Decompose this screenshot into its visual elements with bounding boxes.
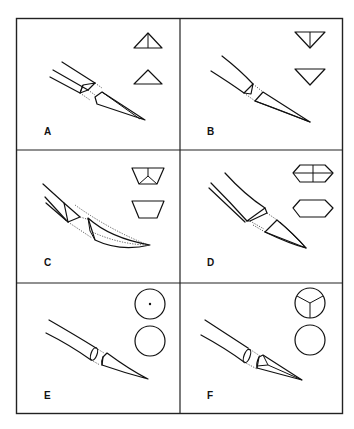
needle-d-icon bbox=[209, 173, 306, 248]
panel-f: F bbox=[201, 288, 325, 401]
panel-label-b: B bbox=[207, 126, 214, 137]
cross-section-f-tip-icon bbox=[295, 288, 325, 318]
needle-e-icon bbox=[46, 320, 148, 379]
needle-b-icon bbox=[211, 56, 310, 122]
cross-section-b-body-icon bbox=[295, 69, 325, 85]
panel-label-f: F bbox=[207, 390, 213, 401]
needle-c-icon bbox=[43, 184, 150, 248]
panel-label-c: C bbox=[44, 257, 51, 268]
needle-f-icon bbox=[201, 320, 302, 380]
cross-section-d-body-icon bbox=[293, 200, 333, 217]
panel-label-e: E bbox=[44, 390, 51, 401]
needle-diagram: A B bbox=[0, 0, 354, 429]
cross-section-c-body-icon bbox=[132, 201, 164, 218]
panel-label-d: D bbox=[207, 257, 214, 268]
panel-d: D bbox=[207, 165, 333, 268]
cross-section-a-body-icon bbox=[134, 70, 162, 84]
panel-e: E bbox=[44, 289, 165, 401]
center-dot-icon bbox=[149, 303, 151, 305]
cross-section-d-cutting-icon bbox=[293, 165, 333, 182]
panel-label-a: A bbox=[44, 126, 51, 137]
panel-a: A bbox=[44, 33, 162, 137]
cross-section-f-body-icon bbox=[295, 325, 325, 355]
panel-c: C bbox=[43, 168, 164, 268]
cross-section-b-cutting-icon bbox=[295, 32, 325, 48]
needle-a-icon bbox=[50, 62, 145, 120]
cross-section-e-tip-icon bbox=[135, 289, 165, 319]
cross-section-e-body-icon bbox=[135, 326, 165, 356]
panel-b: B bbox=[207, 32, 325, 137]
cross-section-a-cutting-icon bbox=[134, 33, 162, 48]
cross-section-c-cutting-icon bbox=[132, 168, 164, 184]
